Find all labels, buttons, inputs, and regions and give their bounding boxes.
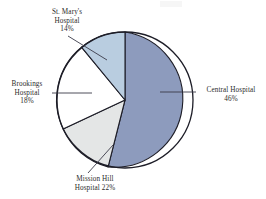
pie-chart-figure: St. Mary's Hospital 14% Brookings Hospit… (0, 0, 266, 199)
slice-label-mission-hill-hospital: Mission Hill Hospital 22% (56, 175, 134, 192)
slice-label-st-marys-hospital: St. Mary's Hospital 14% (34, 8, 100, 34)
slice-label-line: Central Hospital (198, 86, 264, 95)
slice-label-brookings-hospital: Brookings Hospital 18% (2, 80, 52, 106)
slice-label-line: Mission Hill (56, 175, 134, 184)
slice-label-percent: 46% (198, 95, 264, 104)
slice-label-line: Hospital (2, 89, 52, 98)
slice-label-percent: 14% (34, 25, 100, 34)
slice-label-line: St. Mary's (34, 8, 100, 17)
slice-label-line: Hospital (34, 17, 100, 26)
slice-label-percent: 18% (2, 97, 52, 106)
slice-label-central-hospital: Central Hospital 46% (198, 86, 264, 103)
slice-label-percent: Hospital 22% (56, 184, 134, 193)
slice-label-line: Brookings (2, 80, 52, 89)
